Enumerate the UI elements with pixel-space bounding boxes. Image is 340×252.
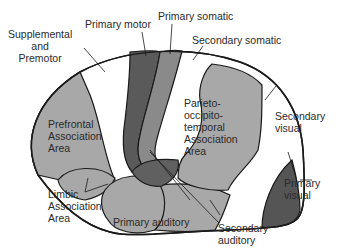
label-primary-motor: Primary motor [85, 18, 151, 30]
label-line: Prefrontal [48, 118, 102, 130]
label-line: Secondary [275, 110, 325, 122]
label-primary-somatic: Primary somatic [158, 10, 233, 22]
label-limbic-association: Limbic Association Area [48, 188, 102, 224]
label-line: Limbic [48, 188, 102, 200]
label-line: and [8, 40, 72, 52]
brain-cortex-diagram: Supplemental and Premotor Primary motor … [0, 0, 340, 252]
label-secondary-auditory: Secondary auditory [218, 222, 268, 246]
label-line: Association [184, 133, 238, 145]
label-line: Association [48, 130, 102, 142]
label-line: Primary [284, 177, 320, 189]
label-line: Supplemental [8, 28, 72, 40]
label-line: visual [275, 122, 325, 134]
label-line: Premotor [8, 52, 72, 64]
label-line: Area [48, 212, 102, 224]
label-line: temporal [184, 121, 238, 133]
label-line: Secondary [218, 222, 268, 234]
label-line: occipito- [184, 109, 238, 121]
label-primary-visual: Primary visual [284, 177, 320, 201]
label-parieto-occipito-temporal: Parieto- occipito- temporal Association … [184, 97, 238, 157]
label-line: Parieto- [184, 97, 238, 109]
label-line: auditory [218, 234, 268, 246]
label-line: Association [48, 200, 102, 212]
label-supplemental-premotor: Supplemental and Premotor [8, 28, 72, 64]
label-secondary-somatic: Secondary somatic [192, 34, 281, 46]
label-secondary-visual: Secondary visual [275, 110, 325, 134]
label-line: Area [184, 145, 238, 157]
label-line: Area [48, 142, 102, 154]
label-primary-auditory: Primary auditory [113, 216, 189, 228]
label-prefrontal-association: Prefrontal Association Area [48, 118, 102, 154]
label-line: visual [284, 189, 320, 201]
